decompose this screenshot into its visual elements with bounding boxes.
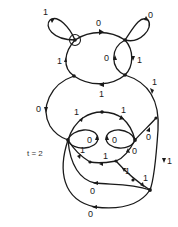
time-step-label: t = 2 <box>27 149 43 158</box>
edge-label: 1 <box>99 89 104 99</box>
edge-label: 1 <box>43 7 48 17</box>
arrow-icon <box>44 107 48 113</box>
arrow-icon <box>99 29 104 35</box>
edge-label: 1 <box>143 173 148 183</box>
top-right-loop-edge <box>125 19 149 41</box>
edge-label: 0 <box>146 132 151 142</box>
edge-label: 1 <box>121 105 126 115</box>
edge-label: 0 <box>148 10 153 20</box>
inner-loop-right-edge <box>106 130 135 148</box>
edge-label: 1 <box>74 107 79 117</box>
edge-label: 0 <box>36 104 41 114</box>
edge-label: 1 <box>167 156 172 166</box>
edge-label: 1 <box>80 145 85 155</box>
edge-label: 0 <box>132 146 137 156</box>
edge-label: 0 <box>112 135 117 145</box>
arrow-icon <box>162 158 166 163</box>
left-outer-edge <box>46 76 74 140</box>
edge-label: 0 <box>87 135 92 145</box>
node-bottom-top <box>100 110 104 114</box>
edge-label: 0 <box>104 53 109 63</box>
arrow-icon <box>99 82 104 87</box>
edge-label: 0 <box>90 186 95 196</box>
edge-label: 1 <box>103 151 108 161</box>
edge-label: 1 <box>137 55 142 65</box>
state-transition-diagram: 1 0 0 1 0 1 1 1 0 1 1 0 0 0 1 1 0 1 1 1 … <box>0 0 178 227</box>
edge-label: 1 <box>57 56 62 66</box>
edge-label: 1 <box>152 77 157 87</box>
edge-label: 1 <box>125 166 130 176</box>
arrow-icon <box>93 181 98 185</box>
inner-lens-right-edge <box>125 40 132 75</box>
node-chain-1 <box>88 160 91 163</box>
edge-label: 0 <box>88 209 93 219</box>
bottom-arc-upper-edge <box>74 75 125 84</box>
lower-chain-edge <box>68 140 135 163</box>
edge-label: 0 <box>96 18 101 28</box>
node-diag <box>131 178 134 181</box>
